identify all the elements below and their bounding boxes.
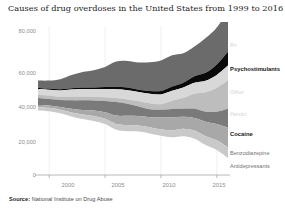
series-label-other: Other	[230, 89, 244, 95]
y-tick-20000: 20,000	[2, 139, 36, 145]
y-tick-80000: 80,000	[2, 28, 36, 34]
x-tick-2015: 2015	[206, 182, 232, 188]
chart-title: Causes of drug overdoses in the United S…	[8, 3, 270, 14]
streamgraph-svg	[0, 22, 285, 184]
y-tick-40000: 40,000	[2, 104, 36, 110]
chart-figure: Causes of drug overdoses in the United S…	[0, 0, 285, 214]
series-label-cocaine: Cocaine	[230, 131, 253, 137]
x-tick-2000: 2000	[55, 182, 81, 188]
source-text: National Institute on Drug Abuse	[32, 196, 113, 202]
source-prefix: Source:	[9, 196, 30, 202]
chart-source: Source: National Institute on Drug Abuse	[9, 196, 113, 202]
series-label-benzodiazepine: Benzodiazepine	[230, 150, 270, 156]
x-tick-2010: 2010	[156, 182, 182, 188]
y-tick-60000: 60,000	[2, 70, 36, 76]
series-label-heroin: Heroin	[230, 111, 246, 117]
x-tick-2005: 2005	[105, 182, 131, 188]
chart-plot-area	[0, 22, 285, 184]
y-tick-0: 0	[2, 172, 36, 178]
series-label-rx: Rx	[230, 42, 237, 48]
series-label-antidepressants: Antidepressants	[230, 163, 270, 169]
series-label-psychostimulants: Psychostimulants	[230, 66, 280, 72]
